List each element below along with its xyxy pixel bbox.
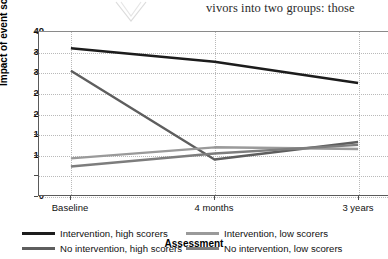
x-tick-label: Baseline [30,202,110,213]
page-text-fragment: vivors into two groups: those [206,1,355,16]
plot-area [38,31,388,196]
legend-item-0[interactable]: Intervention, high scorers [22,228,168,239]
legend-swatch-0 [22,232,55,235]
y-tick-mark [34,196,38,197]
x-tick-label: 4 months [174,202,254,213]
legend-item-3[interactable]: No intervention, low scorers [186,243,342,254]
legend-item-1[interactable]: No intervention, high scorers [22,243,182,254]
series-lines [39,32,388,195]
x-tick-mark [70,196,71,200]
chart-figure: vivors into two groups: those Impact of … [0,0,388,259]
legend-swatch-2 [186,232,219,235]
y-axis-title: Impact of event scale [0,0,9,86]
legend-swatch-1 [22,247,55,250]
chart-area: Impact of event scale 0510152025303540 B… [0,26,388,210]
legend-label-2: Intervention, low scorers [224,228,328,239]
x-tick-mark [214,196,215,200]
series-line-0 [71,48,358,83]
legend-swatch-3 [186,247,219,250]
legend-item-2[interactable]: Intervention, low scorers [186,228,328,239]
legend-label-3: No intervention, low scorers [224,243,342,254]
legend-label-0: Intervention, high scorers [60,228,168,239]
double-chevron-icon [112,0,150,24]
x-tick-mark [358,196,359,200]
chart-legend: Intervention, high scorersIntervention, … [0,228,388,259]
x-tick-label: 3 years [318,202,388,213]
legend-label-1: No intervention, high scorers [60,243,182,254]
